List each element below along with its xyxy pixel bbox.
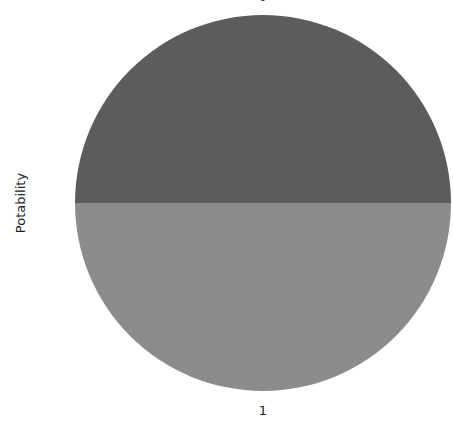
- y-axis-label: Potability: [13, 173, 28, 233]
- pie-chart: Potability 0 1: [0, 0, 453, 427]
- pie-slice-1: [75, 203, 451, 391]
- pie-slice-0: [75, 15, 451, 203]
- slice-label-0: 0: [259, 0, 267, 4]
- pie-svg: [0, 0, 453, 427]
- slice-label-1: 1: [259, 402, 267, 417]
